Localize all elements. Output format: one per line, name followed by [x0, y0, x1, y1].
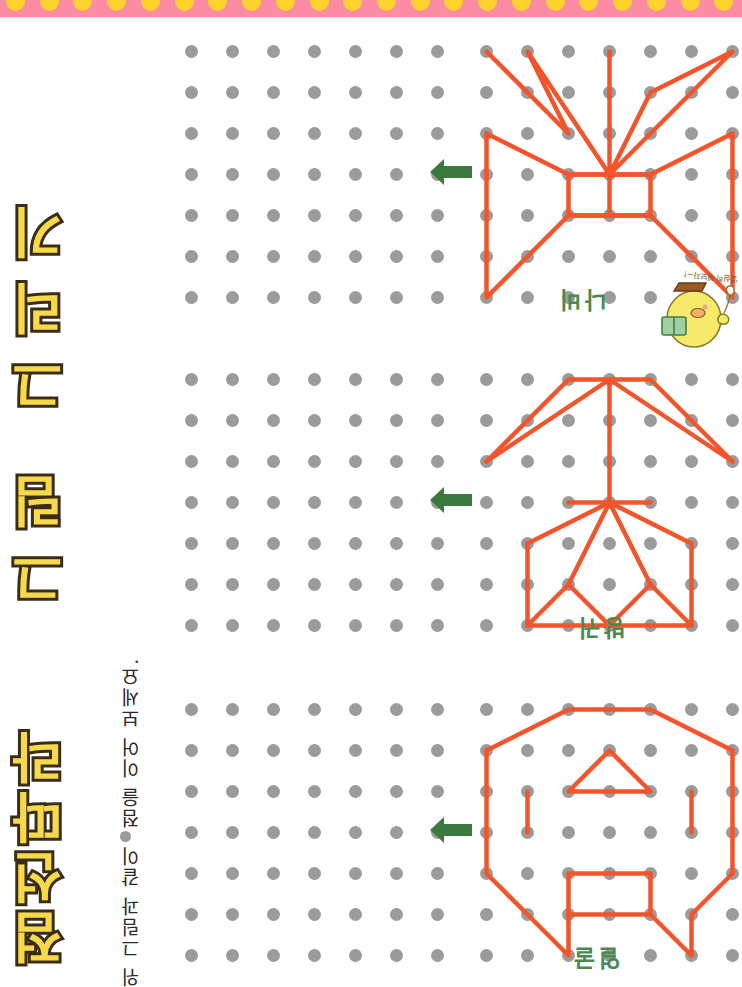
- grid-dot: [390, 45, 403, 58]
- grid-dot: [431, 537, 444, 550]
- grid-dot: [185, 373, 198, 386]
- grid-dot: [185, 867, 198, 880]
- grid-dot: [267, 949, 280, 962]
- grid-dot: [390, 826, 403, 839]
- grid-dot: [226, 619, 239, 632]
- exercise-row-2: 방귀: [0, 355, 742, 655]
- shape-label-1: 나비: [556, 285, 606, 319]
- exercise-row-3: 얼굴: [0, 685, 742, 985]
- grid-dot: [431, 414, 444, 427]
- grid-dot: [185, 908, 198, 921]
- grid-dot: [308, 703, 321, 716]
- grid-dot: [267, 414, 280, 427]
- model-dot-grid[interactable]: [480, 703, 739, 962]
- blank-dot-grid[interactable]: [185, 45, 444, 304]
- grid-dot: [185, 168, 198, 181]
- grid-dot: [308, 414, 321, 427]
- grid-dot: [431, 45, 444, 58]
- left-arrow-icon: [428, 813, 474, 847]
- grid-dot: [349, 496, 362, 509]
- grid-dot: [390, 619, 403, 632]
- model-area-1[interactable]: [480, 45, 739, 304]
- grid-dot: [308, 619, 321, 632]
- grid-dot: [185, 949, 198, 962]
- grid-dot: [226, 744, 239, 757]
- grid-dot: [390, 86, 403, 99]
- grid-dot: [431, 703, 444, 716]
- grid-dot: [349, 867, 362, 880]
- scallop-dot: [208, 0, 227, 11]
- scallop-dot: [478, 0, 497, 11]
- model-dot-grid[interactable]: [480, 373, 739, 632]
- grid-dot: [390, 496, 403, 509]
- answer-area-1[interactable]: [185, 45, 444, 304]
- grid-dot: [226, 291, 239, 304]
- grid-dot: [267, 867, 280, 880]
- grid-dot: [226, 578, 239, 591]
- grid-dot: [185, 291, 198, 304]
- scallop-dot: [107, 0, 126, 11]
- scallop-dot: [647, 0, 666, 11]
- grid-dot: [390, 537, 403, 550]
- grid-dot: [185, 703, 198, 716]
- grid-dot: [349, 45, 362, 58]
- grid-dot: [267, 496, 280, 509]
- grid-dot: [226, 496, 239, 509]
- grid-dot: [185, 744, 198, 757]
- grid-dot: [431, 250, 444, 263]
- grid-dot: [226, 45, 239, 58]
- scallop-dot: [579, 0, 598, 11]
- scallop-dot: [343, 0, 362, 11]
- model-dot-grid[interactable]: [480, 45, 739, 304]
- grid-dot: [226, 209, 239, 222]
- grid-dot: [431, 209, 444, 222]
- grid-dot: [349, 619, 362, 632]
- grid-dot: [349, 291, 362, 304]
- scallop-dot: [411, 0, 430, 11]
- grid-dot: [390, 250, 403, 263]
- grid-dot: [185, 785, 198, 798]
- grid-dot: [349, 209, 362, 222]
- grid-dot: [390, 785, 403, 798]
- grid-dot: [185, 45, 198, 58]
- grid-dot: [431, 908, 444, 921]
- scallop-dot: [242, 0, 261, 11]
- grid-dot: [226, 86, 239, 99]
- scallop-dot: [73, 0, 92, 11]
- grid-dot: [349, 373, 362, 386]
- grid-dot: [431, 455, 444, 468]
- blank-dot-grid[interactable]: [185, 373, 444, 632]
- grid-dot: [390, 744, 403, 757]
- grid-dot: [226, 250, 239, 263]
- grid-dot: [308, 826, 321, 839]
- left-arrow-icon: [428, 155, 474, 189]
- blank-dot-grid[interactable]: [185, 703, 444, 962]
- grid-dot: [390, 949, 403, 962]
- grid-dot: [226, 168, 239, 181]
- grid-dot: [185, 578, 198, 591]
- grid-dot: [390, 908, 403, 921]
- model-area-2[interactable]: [480, 373, 739, 632]
- grid-dot: [308, 250, 321, 263]
- answer-area-3[interactable]: [185, 703, 444, 962]
- grid-dot: [226, 127, 239, 140]
- grid-dot: [349, 908, 362, 921]
- grid-dot: [349, 578, 362, 591]
- grid-dot: [308, 291, 321, 304]
- grid-dot: [308, 949, 321, 962]
- grid-dot: [349, 168, 362, 181]
- grid-dot: [185, 496, 198, 509]
- grid-dot: [308, 127, 321, 140]
- grid-dot: [267, 537, 280, 550]
- grid-dot: [390, 703, 403, 716]
- grid-dot: [185, 127, 198, 140]
- scallop-dot: [175, 0, 194, 11]
- grid-dot: [185, 414, 198, 427]
- grid-dot: [267, 619, 280, 632]
- shape-stroke: [487, 52, 733, 175]
- grid-dot: [431, 785, 444, 798]
- grid-dot: [267, 455, 280, 468]
- answer-area-2[interactable]: [185, 373, 444, 632]
- model-area-3[interactable]: [480, 703, 739, 962]
- grid-dot: [431, 291, 444, 304]
